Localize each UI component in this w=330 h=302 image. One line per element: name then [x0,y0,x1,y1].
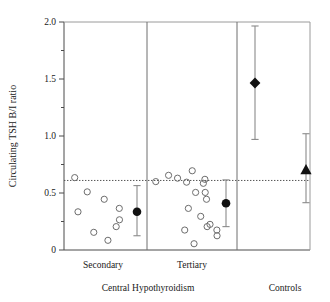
y-tick-label-2: 1.0 [44,131,56,141]
tertiary-mean-dot [222,199,231,208]
y-tick-label-3: 1.5 [44,74,56,84]
group-label-controls: Controls [269,283,302,293]
super-label-central-hypothyroidism: Central Hypothyroidism [102,283,195,293]
y-tick-label-1: 0.5 [44,188,56,198]
y-tick-label-0: 0 [51,245,56,255]
y-tick-label-4: 2.0 [44,17,56,27]
group-label-secondary: Secondary [83,260,123,270]
secondary-mean-dot [133,208,142,217]
chart-background [0,0,330,302]
group-label-tertiary: Tertiary [177,260,207,270]
y-axis-title: Circulating TSH B/I ratio [7,85,18,187]
chart-root: 00.51.01.52.0 Circulating TSH B/I ratio … [0,0,330,302]
tsh-bi-ratio-scatter-chart: 00.51.01.52.0 Circulating TSH B/I ratio … [0,0,330,302]
